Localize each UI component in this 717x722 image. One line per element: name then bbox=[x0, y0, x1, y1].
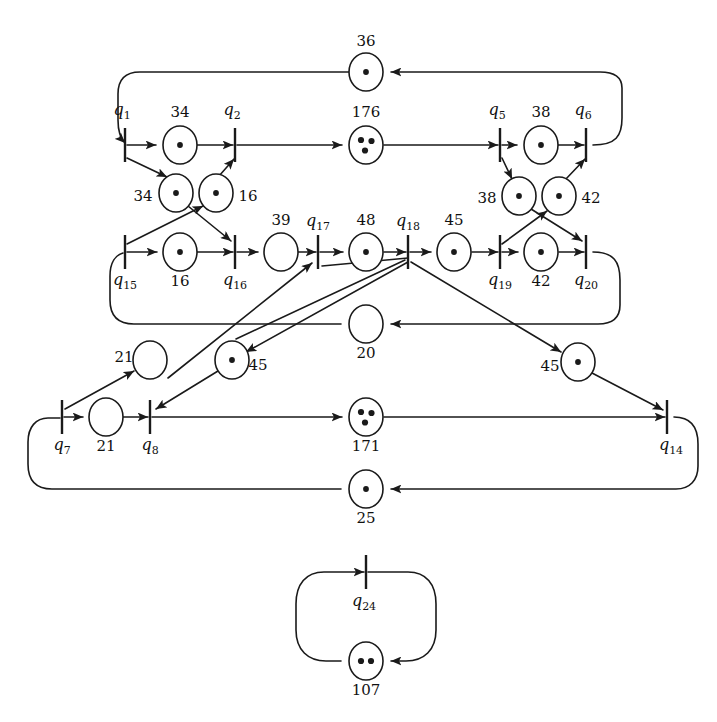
transition-label-q24: q24 bbox=[352, 591, 376, 613]
token-dot bbox=[177, 249, 183, 255]
transition-label-letter: q bbox=[223, 270, 233, 289]
place-circle bbox=[133, 341, 167, 379]
transition-label-subscript: 24 bbox=[362, 600, 376, 613]
place-label-p38a: 38 bbox=[531, 103, 550, 121]
token-dot bbox=[516, 193, 522, 199]
place-p171[interactable] bbox=[349, 398, 383, 436]
edge-p45b-to-q8 bbox=[156, 371, 218, 409]
place-label-p16b: 16 bbox=[170, 272, 189, 290]
token-dot bbox=[358, 137, 364, 143]
place-circle bbox=[264, 233, 298, 271]
transition-label-subscript: 18 bbox=[406, 220, 420, 233]
token-dot bbox=[363, 249, 369, 255]
place-p45a[interactable] bbox=[437, 233, 471, 271]
transition-label-q14: q14 bbox=[659, 435, 683, 457]
place-p38b[interactable] bbox=[502, 177, 536, 215]
token-dot bbox=[575, 359, 581, 365]
token-dot bbox=[538, 142, 544, 148]
transition-label-q8: q8 bbox=[141, 435, 158, 457]
place-label-p42a: 42 bbox=[581, 189, 600, 207]
transition-label-subscript: 15 bbox=[123, 279, 137, 292]
place-label-p42b: 42 bbox=[531, 272, 550, 290]
transition-label-subscript: 5 bbox=[499, 109, 506, 122]
token-dot bbox=[229, 357, 235, 363]
place-p20[interactable] bbox=[349, 305, 383, 343]
transition-label-q5: q5 bbox=[488, 100, 505, 122]
transition-label-letter: q bbox=[396, 211, 406, 230]
transition-label-letter: q bbox=[113, 270, 123, 289]
token-dot bbox=[358, 658, 364, 664]
token-dot bbox=[363, 486, 369, 492]
token-dot bbox=[368, 138, 374, 144]
place-p48[interactable] bbox=[349, 233, 383, 271]
transition-label-letter: q bbox=[53, 435, 63, 454]
place-label-p107: 107 bbox=[352, 681, 381, 699]
transition-label-q18: q18 bbox=[396, 211, 420, 233]
edge-p25-to-q7 bbox=[28, 418, 341, 489]
transition-label-letter: q bbox=[659, 435, 669, 454]
place-p45b[interactable] bbox=[215, 341, 249, 379]
place-p42b[interactable] bbox=[524, 233, 558, 271]
transition-label-letter: q bbox=[306, 211, 316, 230]
place-label-p16a: 16 bbox=[238, 187, 257, 205]
transition-label-q17: q17 bbox=[306, 211, 330, 233]
edge-p45b-to-q8-line bbox=[246, 262, 408, 352]
place-p21b[interactable] bbox=[89, 398, 123, 436]
edge-p45c-to-q14 bbox=[592, 373, 663, 410]
place-label-p39: 39 bbox=[271, 211, 290, 229]
place-p34a[interactable] bbox=[163, 126, 197, 164]
place-p21a[interactable] bbox=[133, 341, 167, 379]
place-p42a[interactable] bbox=[542, 177, 576, 215]
place-label-p176: 176 bbox=[352, 103, 381, 121]
place-label-p21b: 21 bbox=[96, 437, 115, 455]
transition-label-subscript: 2 bbox=[234, 109, 241, 122]
place-p36[interactable] bbox=[349, 53, 383, 91]
transition-label-subscript: 20 bbox=[584, 279, 598, 292]
transition-label-q19: q19 bbox=[488, 270, 512, 292]
place-p25[interactable] bbox=[349, 470, 383, 508]
transition-label-letter: q bbox=[574, 270, 584, 289]
place-label-p38b: 38 bbox=[477, 189, 496, 207]
edge-q14-to-p25 bbox=[391, 417, 698, 489]
transition-label-subscript: 19 bbox=[498, 279, 512, 292]
edge-p42a-to-q6 bbox=[565, 159, 585, 180]
transition-label-q6: q6 bbox=[574, 100, 591, 122]
place-circle bbox=[349, 305, 383, 343]
place-label-p171: 171 bbox=[352, 437, 381, 455]
transition-label-subscript: 1 bbox=[124, 109, 131, 122]
transition-label-q1: q1 bbox=[113, 100, 130, 122]
places-layer bbox=[89, 53, 595, 680]
place-circle bbox=[349, 642, 383, 680]
place-p39[interactable] bbox=[264, 233, 298, 271]
transition-label-letter: q bbox=[352, 591, 362, 610]
edge-p16a-to-q2 bbox=[219, 159, 234, 176]
place-p16b[interactable] bbox=[163, 233, 197, 271]
transition-label-subscript: 17 bbox=[316, 220, 330, 233]
petri-net-diagram: 3634176383416384216394845422021454521171… bbox=[0, 0, 717, 722]
place-label-p21a: 21 bbox=[114, 348, 133, 366]
place-label-p20: 20 bbox=[356, 344, 375, 362]
place-p16a[interactable] bbox=[199, 174, 233, 212]
transition-label-letter: q bbox=[488, 100, 498, 119]
place-circle bbox=[89, 398, 123, 436]
transition-label-letter: q bbox=[113, 100, 123, 119]
place-p38a[interactable] bbox=[524, 126, 558, 164]
transition-label-letter: q bbox=[141, 435, 151, 454]
place-p176[interactable] bbox=[349, 126, 383, 164]
place-circle bbox=[349, 398, 383, 436]
place-p34b[interactable] bbox=[159, 174, 193, 212]
place-label-p48: 48 bbox=[356, 211, 375, 229]
transition-label-letter: q bbox=[223, 100, 233, 119]
place-circle bbox=[349, 126, 383, 164]
place-label-p25: 25 bbox=[356, 509, 375, 527]
place-p45c[interactable] bbox=[561, 343, 595, 381]
transition-label-subscript: 14 bbox=[669, 444, 683, 457]
token-dot bbox=[451, 249, 457, 255]
transition-label-subscript: 7 bbox=[64, 444, 71, 457]
place-p107[interactable] bbox=[349, 642, 383, 680]
transition-label-letter: q bbox=[488, 270, 498, 289]
place-label-p45c: 45 bbox=[540, 357, 559, 375]
transition-label-q20: q20 bbox=[574, 270, 598, 292]
transition-label-q16: q16 bbox=[223, 270, 247, 292]
edge-q1-to-p34b bbox=[127, 158, 167, 177]
